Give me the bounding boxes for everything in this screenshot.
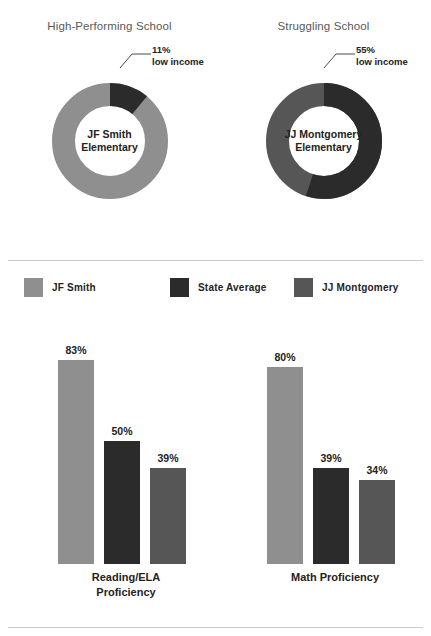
bar-group-label-math-line1: Math Proficiency <box>291 571 379 583</box>
chart-legend: JF Smith State Average JJ Montgomery <box>0 276 431 306</box>
bar-state-average-math <box>313 468 349 564</box>
legend-swatch-icon-state-average <box>170 278 189 297</box>
legend-item-jj-montgomery: JJ Montgomery <box>294 276 399 298</box>
callout-value-right: 55% <box>356 44 375 55</box>
bar-jf-smith-math <box>267 367 303 564</box>
callout-label-left: low income <box>152 56 204 67</box>
bar-jj-montgomery-reading <box>150 468 186 564</box>
donut-chart-jf-smith: JF Smith Elementary <box>51 82 169 200</box>
callout-leader-line-right <box>324 44 356 70</box>
bars-row-reading-ela: 83% 50% 39% <box>46 318 206 564</box>
bar-jf-smith-reading <box>58 360 94 564</box>
callout-value-left: 11% <box>152 44 171 55</box>
donut-center-line2-left: Elementary <box>81 141 138 153</box>
bar-group-math: 80% 39% 34% Math Proficiency <box>255 318 415 618</box>
bar-value-jf-smith-math: 80% <box>261 351 309 363</box>
bar-value-jf-smith-reading: 83% <box>52 344 100 356</box>
bar-value-state-average-reading: 50% <box>98 425 146 437</box>
bar-state-average-reading <box>104 441 140 564</box>
donut-panel-high-performing: High-Performing School JF Smith Elementa… <box>2 0 217 258</box>
bar-value-jj-montgomery-math: 34% <box>353 464 401 476</box>
callout-leader-line-left <box>120 44 152 70</box>
divider-bottom <box>8 627 423 628</box>
bar-group-label-reading-line1: Reading/ELA <box>92 571 160 583</box>
callout-right: 55% low income <box>356 44 408 68</box>
donut-title-left: High-Performing School <box>2 20 217 32</box>
bar-value-jj-montgomery-reading: 39% <box>144 452 192 464</box>
bar-group-reading-ela: 83% 50% 39% Reading/ELA Proficiency <box>46 318 206 618</box>
callout-label-right: low income <box>356 56 408 67</box>
bar-jj-montgomery-math <box>359 480 395 564</box>
bar-group-label-math: Math Proficiency <box>255 570 415 585</box>
legend-item-state-average: State Average <box>170 276 267 298</box>
donut-center-label-right: JJ Montgomery Elementary <box>278 128 370 154</box>
callout-left: 11% low income <box>152 44 204 68</box>
donut-panel-struggling: Struggling School JJ Montgomery Elementa… <box>216 0 431 258</box>
bars-row-math: 80% 39% 34% <box>255 318 415 564</box>
legend-label-state-average: State Average <box>198 282 267 293</box>
legend-label-jf-smith: JF Smith <box>52 282 96 293</box>
bar-chart-section: 83% 50% 39% Reading/ELA Proficiency 80% <box>0 318 431 618</box>
bar-group-label-reading-ela: Reading/ELA Proficiency <box>46 570 206 600</box>
legend-swatch-icon-jf-smith <box>24 278 43 297</box>
donut-chart-jj-montgomery: JJ Montgomery Elementary <box>265 82 383 200</box>
donut-center-line1-left: JF Smith <box>87 128 131 140</box>
donut-center-line1-right: JJ Montgomery <box>285 128 363 140</box>
divider-top <box>8 260 423 261</box>
donut-center-line2-right: Elementary <box>295 141 352 153</box>
legend-swatch-icon-jj-montgomery <box>294 278 313 297</box>
legend-item-jf-smith: JF Smith <box>24 276 96 298</box>
donut-charts-section: High-Performing School JF Smith Elementa… <box>0 0 431 258</box>
donut-title-right: Struggling School <box>216 20 431 32</box>
bar-group-label-reading-line2: Proficiency <box>96 586 155 598</box>
legend-label-jj-montgomery: JJ Montgomery <box>322 282 399 293</box>
donut-center-label-left: JF Smith Elementary <box>64 128 156 154</box>
bar-value-state-average-math: 39% <box>307 452 355 464</box>
